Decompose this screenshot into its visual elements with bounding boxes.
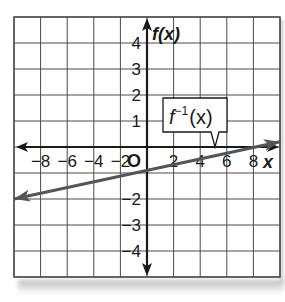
svg-text:8: 8 bbox=[249, 152, 258, 171]
svg-text:3: 3 bbox=[132, 60, 141, 79]
svg-text:−4: −4 bbox=[122, 242, 141, 261]
svg-text:4: 4 bbox=[195, 152, 204, 171]
coordinate-graph: −8−6−4−22468−4−3−21234 f−1(x) f(x) x O bbox=[0, 0, 285, 302]
x-axis-label: x bbox=[262, 152, 274, 172]
callout-arg: (x) bbox=[189, 106, 212, 128]
svg-text:1: 1 bbox=[132, 112, 141, 131]
svg-text:4: 4 bbox=[132, 34, 141, 53]
svg-text:−2: −2 bbox=[122, 190, 141, 209]
svg-text:−3: −3 bbox=[122, 216, 141, 235]
svg-text:−4: −4 bbox=[84, 152, 103, 171]
svg-text:−6: −6 bbox=[58, 152, 77, 171]
svg-text:2: 2 bbox=[132, 86, 141, 105]
svg-text:2: 2 bbox=[169, 152, 178, 171]
y-axis-label: f(x) bbox=[152, 24, 180, 44]
origin-label: O bbox=[127, 151, 141, 171]
callout-superscript: −1 bbox=[175, 104, 189, 118]
svg-text:−8: −8 bbox=[31, 152, 50, 171]
